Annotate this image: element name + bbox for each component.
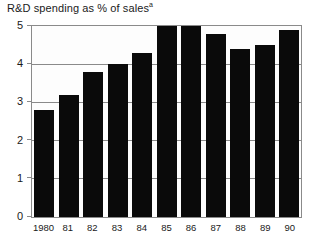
bar-series [32, 26, 301, 217]
y-tick-label-0: 0 [17, 210, 23, 222]
x-tick-label-89: 89 [255, 222, 275, 242]
x-tick-label-85: 85 [156, 222, 176, 242]
chart-title-footnote-marker: a [149, 1, 153, 8]
bar-87 [206, 34, 226, 217]
bar-88 [230, 49, 250, 217]
bar-83 [108, 64, 128, 217]
chart-figure: R&D spending as % of salesa 012345 19808… [0, 0, 313, 244]
bar-85 [157, 26, 177, 217]
bar-84 [132, 53, 152, 217]
x-tick-label-83: 83 [107, 222, 127, 242]
y-tick-label-4: 4 [17, 57, 23, 69]
y-tick-label-5: 5 [17, 19, 23, 31]
y-tick-label-1: 1 [17, 172, 23, 184]
x-tick-label-90: 90 [280, 222, 300, 242]
bar-89 [255, 45, 275, 217]
x-tick-label-87: 87 [206, 222, 226, 242]
x-tick-label-82: 82 [82, 222, 102, 242]
x-tick-label-88: 88 [231, 222, 251, 242]
bar-82 [83, 72, 103, 217]
x-tick-label-1980: 1980 [33, 222, 53, 242]
y-tick-label-3: 3 [17, 95, 23, 107]
bar-81 [59, 95, 79, 217]
x-tick-label-81: 81 [58, 222, 78, 242]
bar-86 [181, 26, 201, 217]
x-tick-label-86: 86 [181, 222, 201, 242]
bar-90 [279, 30, 299, 217]
bar-1980 [34, 110, 54, 217]
x-tick-label-84: 84 [132, 222, 152, 242]
plot-area [31, 25, 302, 218]
y-axis: 012345 [0, 0, 31, 244]
x-axis: 198081828384858687888990 [31, 222, 302, 242]
y-tick-label-2: 2 [17, 134, 23, 146]
